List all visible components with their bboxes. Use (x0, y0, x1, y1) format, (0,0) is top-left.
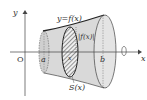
y-axis-label: y (12, 8, 18, 17)
b-label: b (100, 55, 105, 64)
curve-label: y=f(x) (56, 14, 82, 23)
x-axis-label: x (141, 54, 146, 63)
a-label: a (41, 55, 46, 64)
solid-of-revolution-diagram: y x O a b x y=f(x) |f(x)| S(x) (0, 0, 147, 100)
radius-label: |f(x)| (78, 33, 95, 41)
cross-section-label: S(x) (69, 83, 85, 92)
origin-label: O (17, 55, 24, 64)
y-axis-arrow (23, 10, 28, 14)
right-end-face (94, 15, 116, 88)
rotation-arrow-icon (122, 47, 126, 56)
